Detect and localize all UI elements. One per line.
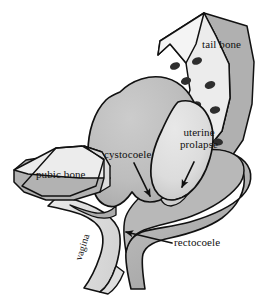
label-tail-bone: tail bone	[202, 38, 241, 50]
foramen-1	[169, 61, 181, 72]
label-cystocoele: cystocoele	[104, 148, 151, 160]
label-rectocoele: rectocoele	[174, 236, 220, 248]
label-uterine-prolapse: uterine prolapse	[172, 126, 226, 150]
label-uterine-prolapse-line2: prolapse	[180, 138, 218, 150]
pelvic-prolapse-figure: tail bone pubic bone cystocoele uterine …	[0, 0, 269, 296]
label-pubic-bone: pubic bone	[36, 168, 86, 180]
label-uterine-prolapse-line1: uterine	[183, 126, 214, 138]
